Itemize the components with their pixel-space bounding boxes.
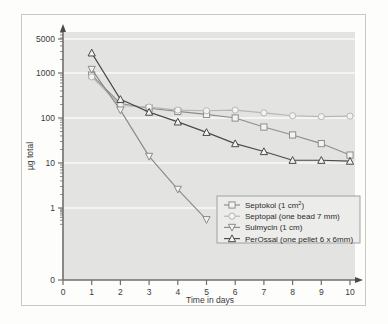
y-tick-label: 1000 <box>36 68 55 78</box>
legend-label: Septokol (1 cm2) <box>245 200 304 210</box>
x-tick-label: 8 <box>290 287 295 297</box>
chart-canvas: 500010001001010 012345678910 µg total Ti… <box>0 0 388 324</box>
x-tick-label: 10 <box>345 287 355 297</box>
x-axis-title: Time in days <box>186 295 234 305</box>
legend-label: Sulmycin (1 cm) <box>245 223 303 232</box>
data-point-circle <box>232 107 238 113</box>
legend-label-tail: ) <box>301 201 304 210</box>
data-point-circle <box>290 113 296 119</box>
line-chart: 500010001001010 012345678910 µg total Ti… <box>0 0 388 324</box>
legend-label: PerOssal (one pellet 6 x 6mm) <box>245 235 353 244</box>
figure-root: 500010001001010 012345678910 µg total Ti… <box>0 0 388 324</box>
x-tick-label: 2 <box>118 287 123 297</box>
x-tick-label: 7 <box>262 287 267 297</box>
y-tick-label: 1 <box>50 203 55 213</box>
data-point-circle <box>203 108 209 114</box>
x-axis-arrow <box>355 277 363 283</box>
data-point-circle <box>261 110 267 116</box>
data-point-square <box>229 202 235 208</box>
data-point-circle <box>347 113 353 119</box>
data-point-square <box>290 132 296 138</box>
y-tick-label: 5000 <box>36 34 55 44</box>
y-tick-label: 100 <box>41 113 55 123</box>
x-tick-label: 3 <box>147 287 152 297</box>
y-tick-label: 0 <box>50 275 55 285</box>
y-axis-title: µg total <box>25 142 35 170</box>
data-point-circle <box>318 114 324 120</box>
x-tick-label: 0 <box>61 287 66 297</box>
data-point-circle <box>175 107 181 113</box>
legend: Septokol (1 cm2)Septopal (one bead 7 mm)… <box>217 196 360 244</box>
data-point-circle <box>89 74 95 80</box>
x-tick-label: 1 <box>89 287 94 297</box>
data-point-square <box>261 124 267 130</box>
y-axis-arrow <box>60 24 66 32</box>
x-tick-label: 9 <box>319 287 324 297</box>
legend-label: Septopal (one bead 7 mm) <box>245 212 340 221</box>
data-point-square <box>232 115 238 121</box>
data-point-square <box>318 140 324 146</box>
y-tick-label: 10 <box>46 158 56 168</box>
y-axis-ticks: 500010001001010 <box>36 32 63 285</box>
x-tick-label: 4 <box>175 287 180 297</box>
data-point-circle <box>229 213 235 219</box>
